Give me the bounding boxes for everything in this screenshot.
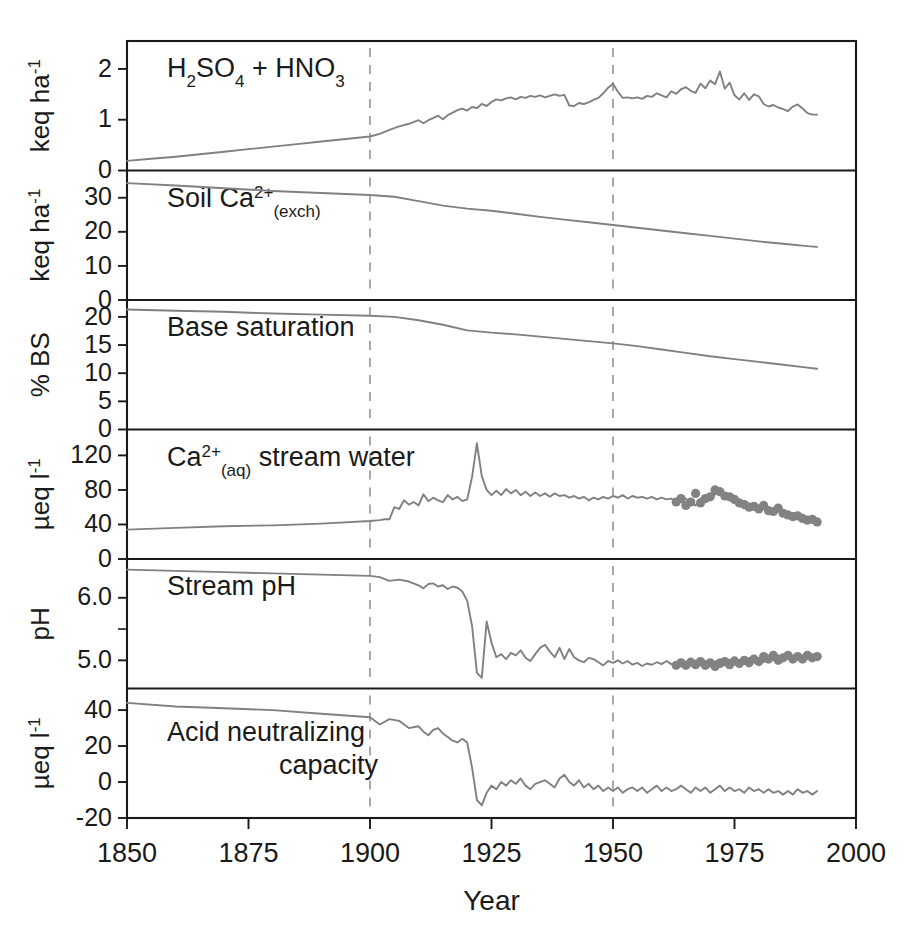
panel-annotation-stream-ph: Stream pH [167,571,296,601]
xtick-label-1925: 1925 [461,838,521,868]
svg-text:keq ha-1: keq ha-1 [25,189,56,282]
ytick-label-ca-stream-water-0: 0 [98,544,112,572]
ytick-label-base-saturation-20: 20 [84,302,112,330]
ytick-label-deposition-1: 1 [98,104,112,132]
ytick-label-stream-ph-6: 6.0 [77,582,112,610]
ytick-label-ca-stream-water-80: 80 [84,475,112,503]
yaxis-title-stream-ph: pH [25,607,55,640]
ytick-label-anc-40: 40 [84,695,112,723]
svg-text:µeq l-1: µeq l-1 [25,717,56,789]
ytick-label-base-saturation-0: 0 [98,414,112,442]
svg-text:% BS: % BS [25,332,55,397]
xtick-label-1850: 1850 [97,838,157,868]
svg-text:pH: pH [25,607,55,640]
ytick-label-deposition-0: 0 [98,155,112,183]
panel-annotation-anc-line2: capacity [279,750,379,780]
xtick-label-2000: 2000 [826,838,886,868]
xaxis-title: Year [463,885,520,916]
ytick-label-anc-0: 0 [98,767,112,795]
yaxis-title-ca-stream-water: µeq l-1 [25,458,56,530]
ytick-label-soil-ca-10: 10 [84,251,112,279]
ytick-label-base-saturation-10: 10 [84,358,112,386]
xtick-label-1875: 1875 [218,838,278,868]
ytick-label-ca-stream-water-40: 40 [84,509,112,537]
panel-annotation-ca-stream-water: Ca2+(aq) stream water [167,441,415,479]
observation-point-stream-ph [813,652,822,661]
observation-point-ca-stream-water [686,497,695,506]
ytick-label-base-saturation-15: 15 [84,330,112,358]
xtick-label-1900: 1900 [340,838,400,868]
observation-point-ca-stream-water [813,517,822,526]
ytick-label-anc-20: 20 [84,731,112,759]
ytick-label-ca-stream-water-120: 120 [70,440,112,468]
panel-annotation-deposition: H2SO4 + HNO3 [167,53,345,91]
yaxis-title-base-saturation: % BS [25,332,55,397]
series-line-deposition [127,71,817,160]
svg-text:µeq l-1: µeq l-1 [25,458,56,530]
yaxis-title-soil-ca: keq ha-1 [25,189,56,282]
ytick-label-base-saturation-5: 5 [98,386,112,414]
yaxis-title-deposition: keq ha-1 [25,59,56,152]
ytick-label-soil-ca-20: 20 [84,216,112,244]
svg-text:keq ha-1: keq ha-1 [25,59,56,152]
ytick-label-soil-ca-30: 30 [84,182,112,210]
xtick-label-1950: 1950 [583,838,643,868]
xtick-label-1975: 1975 [704,838,764,868]
figure-container: 012keq ha-1H2SO4 + HNO30102030keq ha-1So… [0,0,907,947]
ytick-label-deposition-2: 2 [98,54,112,82]
ytick-label-anc--20: -20 [76,803,112,831]
observation-point-ca-stream-water [691,489,700,498]
panel-annotation-base-saturation: Base saturation [167,312,355,342]
ytick-label-stream-ph-5: 5.0 [77,645,112,673]
panel-annotation-soil-ca: Soil Ca2+(exch) [167,182,321,220]
panel-annotation-anc: Acid neutralizing [167,717,365,747]
multi-panel-time-series-chart: 012keq ha-1H2SO4 + HNO30102030keq ha-1So… [0,0,907,947]
yaxis-title-anc: µeq l-1 [25,717,56,789]
